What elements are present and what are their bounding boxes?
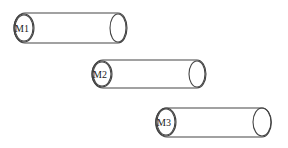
cylinder-label-m2: M2 (93, 69, 107, 80)
cylinder-label-m3: M3 (157, 117, 171, 128)
cylinder-m3: M3 (156, 108, 272, 137)
diagram-canvas: M1 M2 M3 (0, 0, 288, 148)
cylinder-m2: M2 (92, 60, 206, 88)
cylinder-m1: M1 (14, 13, 127, 43)
cylinder-label-m1: M1 (15, 23, 29, 34)
